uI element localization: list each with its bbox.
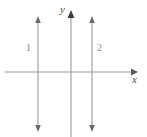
vertical-line-2-bottom-arrowhead: [89, 125, 95, 132]
vertical-line-1-label: 1: [26, 42, 31, 53]
figure-canvas: 1 2 y x: [0, 0, 147, 137]
x-axis-label: x: [131, 73, 137, 85]
vertical-line-1-bottom-arrowhead: [35, 125, 41, 132]
y-axis-arrowhead: [68, 10, 75, 18]
vertical-line-2-top-arrowhead: [89, 16, 95, 23]
y-axis-label: y: [59, 3, 65, 15]
vertical-line-1-top-arrowhead: [35, 16, 41, 23]
coordinate-plane-figure: 1 2 y x: [0, 0, 147, 137]
vertical-line-2-label: 2: [97, 42, 102, 53]
